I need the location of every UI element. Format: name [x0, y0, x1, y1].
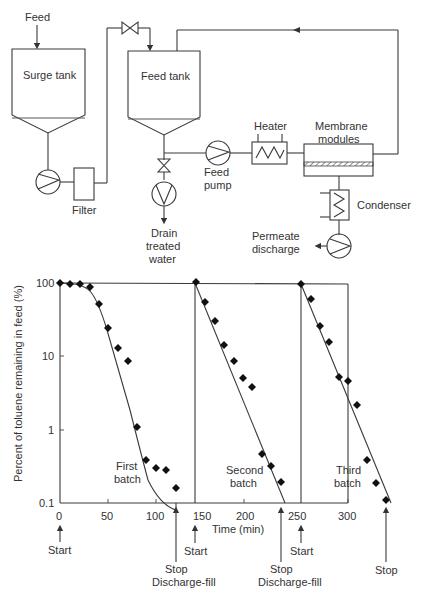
third-batch-label-2: batch	[334, 477, 361, 489]
second-batch-label-2: batch	[230, 477, 257, 489]
drain-label-1: Drain	[151, 227, 177, 239]
feed-pump-icon	[206, 141, 230, 165]
first-batch-label-1: First	[116, 460, 137, 472]
second-batch-label-1: Second	[226, 464, 263, 476]
svg-text:Start: Start	[290, 545, 313, 557]
svg-text:100: 100	[36, 277, 54, 289]
x-axis-label: Time (min)	[212, 523, 264, 535]
svg-text:300: 300	[338, 510, 356, 522]
svg-text:150: 150	[193, 510, 211, 522]
svg-text:Stop: Stop	[375, 564, 398, 576]
surge-tank-label: Surge tank	[23, 69, 77, 81]
condenser-icon	[320, 190, 349, 220]
svg-text:50: 50	[101, 510, 113, 522]
svg-text:Stop: Stop	[270, 563, 293, 575]
membrane-label-1: Membrane	[315, 120, 368, 132]
svg-text:0: 0	[56, 510, 62, 522]
svg-text:100: 100	[146, 510, 164, 522]
toluene-removal-chart: Percent of toluene remaining in feed (%)…	[12, 277, 398, 588]
membrane-module-icon	[304, 144, 373, 176]
valve-icon	[122, 22, 138, 34]
svg-text:Discharge-fill: Discharge-fill	[152, 576, 216, 588]
condenser-label: Condenser	[357, 199, 411, 211]
heater-label: Heater	[254, 120, 287, 132]
permeate-pump-icon	[327, 234, 351, 258]
feed-label: Feed	[25, 11, 50, 23]
svg-text:0.1: 0.1	[39, 497, 54, 509]
filter-label: Filter	[72, 204, 97, 216]
svg-text:Start: Start	[48, 544, 71, 556]
pump-icon	[36, 170, 60, 194]
svg-text:Stop: Stop	[165, 563, 188, 575]
filter-icon	[74, 168, 94, 200]
drain-valve-icon	[158, 159, 170, 172]
surge-tank-icon	[12, 49, 85, 133]
permeate-label-2: discharge	[252, 243, 300, 255]
y-axis-label: Percent of toluene remaining in feed (%)	[12, 285, 24, 482]
figure: Feed Surge tank Filter F	[0, 0, 422, 589]
permeate-label-1: Permeate	[252, 230, 300, 242]
svg-text:Start: Start	[184, 545, 207, 557]
drain-label-3: water	[148, 253, 176, 265]
drain-pump-icon	[152, 182, 176, 206]
svg-text:Discharge-fill: Discharge-fill	[258, 576, 322, 588]
feed-tank-label: Feed tank	[141, 70, 190, 82]
feed-tank-icon	[128, 51, 200, 135]
drain-label-2: treated	[146, 240, 180, 252]
svg-text:10: 10	[42, 350, 54, 362]
svg-text:1: 1	[48, 424, 54, 436]
membrane-label-2: modules	[318, 133, 360, 145]
feed-pump-label-2: pump	[204, 179, 232, 191]
process-flow-diagram: Feed Surge tank Filter F	[12, 11, 411, 265]
svg-text:250: 250	[288, 510, 306, 522]
first-batch-label-2: batch	[114, 473, 141, 485]
heater-icon	[252, 134, 287, 164]
svg-text:200: 200	[236, 510, 254, 522]
third-batch-label-1: Third	[336, 464, 361, 476]
feed-pump-label-1: Feed	[204, 166, 229, 178]
